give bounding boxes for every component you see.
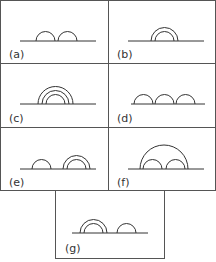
panel-e-label: (e)	[9, 177, 24, 188]
panel-g-label: (g)	[65, 243, 81, 254]
panel-a: (a)	[0, 0, 109, 64]
panel-d-label: (d)	[117, 113, 133, 124]
panel-f-label: (f)	[117, 177, 129, 188]
panel-b-label: (b)	[117, 49, 133, 60]
panel-d: (d)	[108, 63, 216, 128]
panel-c: (c)	[0, 63, 109, 128]
panel-c-label: (c)	[9, 113, 24, 124]
panel-a-label: (a)	[9, 49, 24, 60]
panel-e: (e)	[0, 127, 109, 191]
panel-f: (f)	[108, 127, 216, 191]
panel-b: (b)	[108, 0, 216, 64]
panel-g: (g)	[55, 190, 165, 259]
